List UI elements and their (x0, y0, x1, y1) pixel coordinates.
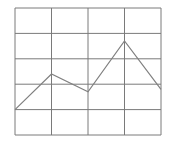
line-chart (0, 0, 171, 143)
chart-grid (15, 8, 161, 135)
